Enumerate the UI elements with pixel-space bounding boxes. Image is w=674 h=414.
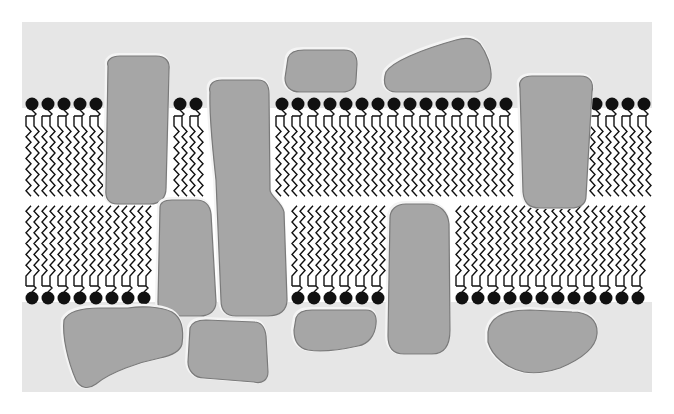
phosphate-head-icon [404, 98, 417, 111]
phosphate-head-icon [74, 292, 87, 305]
phosphate-head-icon [340, 292, 353, 305]
phosphate-head-icon [90, 292, 103, 305]
phosphate-head-icon [500, 98, 513, 111]
peripheral-protein-shape [188, 320, 268, 383]
phosphate-head-icon [568, 292, 581, 305]
protein-integral-center-right [387, 203, 450, 354]
phosphate-head-icon [138, 292, 151, 305]
phosphate-head-icon [606, 98, 619, 111]
protein-peripheral-bottom-center [187, 319, 268, 383]
peripheral-protein-shape [294, 310, 376, 351]
phosphate-head-icon [552, 292, 565, 305]
membrane-diagram [0, 0, 674, 414]
phosphate-head-icon [276, 98, 289, 111]
phosphate-head-icon [292, 292, 305, 305]
protein-integral-lower-left [157, 199, 216, 316]
protein-integral-right [519, 75, 593, 208]
phosphate-head-icon [42, 98, 55, 111]
protein-integral-left-tall [105, 55, 169, 204]
phosphate-head-icon [632, 292, 645, 305]
phosphate-head-icon [484, 98, 497, 111]
phosphate-head-icon [58, 98, 71, 111]
phosphate-head-icon [106, 292, 119, 305]
phosphate-head-icon [504, 292, 517, 305]
phosphate-head-icon [452, 98, 465, 111]
phosphate-head-icon [388, 98, 401, 111]
phosphate-head-icon [472, 292, 485, 305]
phosphate-head-icon [468, 98, 481, 111]
phosphate-head-icon [638, 98, 651, 111]
phosphate-head-icon [622, 98, 635, 111]
phosphate-head-icon [58, 292, 71, 305]
phosphate-head-icon [122, 292, 135, 305]
phosphate-head-icon [42, 292, 55, 305]
peripheral-protein-shape [285, 50, 357, 92]
phosphate-head-icon [308, 98, 321, 111]
protein-peripheral-bottom-mid [293, 309, 376, 351]
phosphate-head-icon [600, 292, 613, 305]
phosphate-head-icon [190, 98, 203, 111]
integral-protein-shape [158, 200, 216, 316]
phosphate-head-icon [174, 98, 187, 111]
phosphate-head-icon [26, 292, 39, 305]
phosphate-head-icon [520, 292, 533, 305]
phosphate-head-icon [356, 98, 369, 111]
integral-protein-shape [388, 204, 450, 354]
phosphate-head-icon [308, 292, 321, 305]
phosphate-head-icon [372, 98, 385, 111]
phosphate-head-icon [324, 292, 337, 305]
phosphate-head-icon [616, 292, 629, 305]
phosphate-head-icon [26, 98, 39, 111]
phosphate-head-icon [488, 292, 501, 305]
phosphate-head-icon [90, 98, 103, 111]
phosphate-head-icon [436, 98, 449, 111]
membrane-canvas [0, 0, 674, 414]
phosphate-head-icon [356, 292, 369, 305]
phosphate-head-icon [74, 98, 87, 111]
phosphate-head-icon [584, 292, 597, 305]
phosphate-head-icon [536, 292, 549, 305]
integral-protein-shape [106, 56, 169, 204]
integral-protein-shape [520, 76, 593, 208]
phosphate-head-icon [324, 98, 337, 111]
phosphate-head-icon [456, 292, 469, 305]
phosphate-head-icon [372, 292, 385, 305]
phosphate-head-icon [292, 98, 305, 111]
protein-peripheral-top-small [284, 49, 357, 92]
phosphate-head-icon [340, 98, 353, 111]
phosphate-head-icon [420, 98, 433, 111]
